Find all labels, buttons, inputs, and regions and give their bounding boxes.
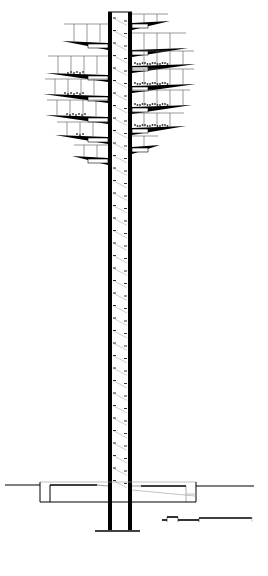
tower-section-drawing xyxy=(0,0,268,576)
vegetation xyxy=(78,113,80,115)
vegetation xyxy=(159,125,161,127)
vegetation xyxy=(162,124,164,126)
platform-right xyxy=(132,33,188,57)
foundation xyxy=(40,482,196,531)
vegetation xyxy=(164,103,166,105)
vegetation xyxy=(82,133,84,135)
vegetation xyxy=(73,72,75,74)
vegetation xyxy=(149,125,151,127)
vegetation xyxy=(81,114,83,116)
vegetation xyxy=(144,124,146,126)
platform-right xyxy=(132,69,196,93)
stair-flight xyxy=(113,243,127,251)
vegetation xyxy=(139,125,141,127)
vegetation xyxy=(154,124,156,126)
vegetation xyxy=(144,82,146,84)
stair-flight xyxy=(113,106,127,114)
tower-shaft xyxy=(108,12,132,530)
stair-flight xyxy=(113,343,127,351)
vegetation xyxy=(152,124,154,126)
vegetation xyxy=(162,82,164,84)
vegetation xyxy=(164,82,166,84)
vegetation xyxy=(84,113,86,115)
vegetation xyxy=(64,92,66,94)
platform-left xyxy=(46,56,108,82)
vegetation xyxy=(144,103,146,105)
platform-bench xyxy=(88,118,108,122)
vegetation xyxy=(164,62,166,64)
vegetation xyxy=(76,133,78,135)
vegetation xyxy=(157,83,159,85)
platform-bench xyxy=(132,108,148,112)
vegetation xyxy=(134,103,136,105)
vegetation xyxy=(134,62,136,64)
vegetation xyxy=(149,104,151,106)
platform-bench xyxy=(132,129,148,133)
vegetation xyxy=(134,124,136,126)
vegetation xyxy=(70,92,72,94)
platform-left xyxy=(62,24,108,50)
stair-flight xyxy=(113,293,127,301)
vegetation xyxy=(144,62,146,64)
platform-right xyxy=(132,14,170,30)
stair-flight xyxy=(113,56,127,64)
vegetation xyxy=(139,104,141,106)
vegetation xyxy=(167,104,169,106)
vegetation xyxy=(162,62,164,64)
vegetation xyxy=(154,103,156,105)
platform-bench xyxy=(88,76,108,80)
platform-right xyxy=(132,90,192,114)
vegetation xyxy=(142,124,144,126)
vegetation xyxy=(79,93,81,95)
platform-right xyxy=(132,136,160,154)
stair-flight xyxy=(113,156,127,164)
stair-flight xyxy=(113,168,127,176)
platform-left xyxy=(55,122,108,144)
vegetation xyxy=(69,114,71,116)
platform-bench xyxy=(132,51,148,55)
stair-flight xyxy=(113,468,127,476)
stair-flight xyxy=(113,268,127,276)
stair-flight xyxy=(113,193,127,201)
vegetation xyxy=(147,83,149,85)
platform-bench xyxy=(88,159,108,163)
vegetation xyxy=(139,63,141,65)
vegetation xyxy=(137,83,139,85)
platform-bench xyxy=(132,87,148,91)
platform-bench xyxy=(88,97,108,101)
vegetation xyxy=(82,92,84,94)
vegetation xyxy=(159,83,161,85)
stair-flight xyxy=(113,406,127,414)
vegetation xyxy=(72,113,74,115)
platform-left xyxy=(72,145,108,165)
stair-flight xyxy=(113,431,127,439)
vegetation xyxy=(142,82,144,84)
platform-right xyxy=(132,113,186,135)
vegetation xyxy=(147,104,149,106)
stair-flight xyxy=(113,118,127,126)
vegetation xyxy=(159,63,161,65)
vegetation xyxy=(149,83,151,85)
stair-flight xyxy=(113,256,127,264)
platform-bench xyxy=(88,44,108,48)
stair-flight xyxy=(113,393,127,401)
stair-flight xyxy=(113,18,127,26)
platform-bench xyxy=(88,138,108,142)
stair-flight xyxy=(113,181,127,189)
vegetation xyxy=(154,62,156,64)
stair-flight xyxy=(113,443,127,451)
stair-flight xyxy=(113,68,127,76)
stair-flight xyxy=(113,81,127,89)
stair-flight xyxy=(113,93,127,101)
stair-flight xyxy=(113,481,127,489)
scale-bar xyxy=(162,517,252,522)
platform-left xyxy=(45,100,108,124)
vegetation xyxy=(76,71,78,73)
vegetation xyxy=(157,125,159,127)
stair-flight xyxy=(113,418,127,426)
vegetation xyxy=(67,72,69,74)
platform-bench xyxy=(132,24,148,28)
deck-left-light xyxy=(97,485,108,486)
vegetation xyxy=(142,103,144,105)
vegetation xyxy=(137,104,139,106)
